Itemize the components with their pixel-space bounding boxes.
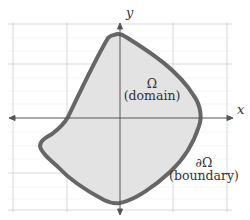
- domain-label: (domain): [124, 88, 181, 103]
- boundary-label: (boundary): [169, 168, 239, 183]
- domain-boundary-diagram: x y Ω (domain) ∂Ω (boundary): [0, 0, 250, 220]
- y-axis-label: y: [125, 5, 134, 20]
- y-axis-arrow-down-icon: [118, 209, 123, 215]
- x-axis-label: x: [237, 102, 245, 117]
- x-axis-arrow-right-icon: [227, 116, 233, 121]
- x-axis-arrow-left-icon: [9, 116, 15, 121]
